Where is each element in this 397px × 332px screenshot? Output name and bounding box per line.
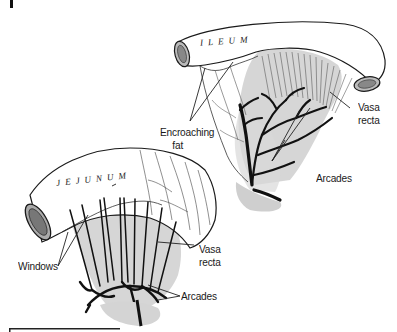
- label-vasa-recta-upper-line2: recta: [358, 114, 380, 127]
- label-vasa-recta-lower-line1: Vasa: [199, 243, 221, 256]
- label-windows: Windows: [18, 260, 58, 273]
- panel-marker: [10, 0, 13, 8]
- label-vasa-recta-upper-line1: Vasa: [358, 101, 380, 114]
- anatomy-figure: ILEUM JEJUNUM Encroaching fat Vasa recta…: [0, 0, 397, 332]
- illustration-drawing: [0, 0, 397, 332]
- label-arcades-lower: Arcades: [181, 290, 217, 303]
- label-vasa-recta-upper: Vasa recta: [358, 101, 380, 127]
- label-vasa-recta-lower: Vasa recta: [199, 243, 221, 269]
- label-encroaching-fat-line2: fat: [160, 139, 213, 152]
- label-arcades-upper: Arcades: [316, 172, 352, 185]
- label-encroaching-fat: Encroaching fat: [160, 126, 213, 152]
- label-vasa-recta-lower-line2: recta: [199, 256, 221, 269]
- label-encroaching-fat-line1: Encroaching: [160, 126, 213, 139]
- bottom-rule: [9, 328, 120, 330]
